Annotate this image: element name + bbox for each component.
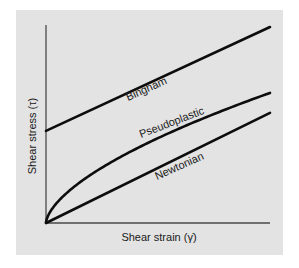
pseudoplastic-curve (46, 93, 270, 223)
bingham-label: Bingham (124, 74, 169, 103)
chart-svg: Bingham Pseudoplastic Newtonian Shear st… (0, 0, 299, 268)
y-axis-label: Shear stress (τ) (26, 98, 38, 174)
x-axis-label: Shear strain (γ̇) (121, 231, 196, 243)
